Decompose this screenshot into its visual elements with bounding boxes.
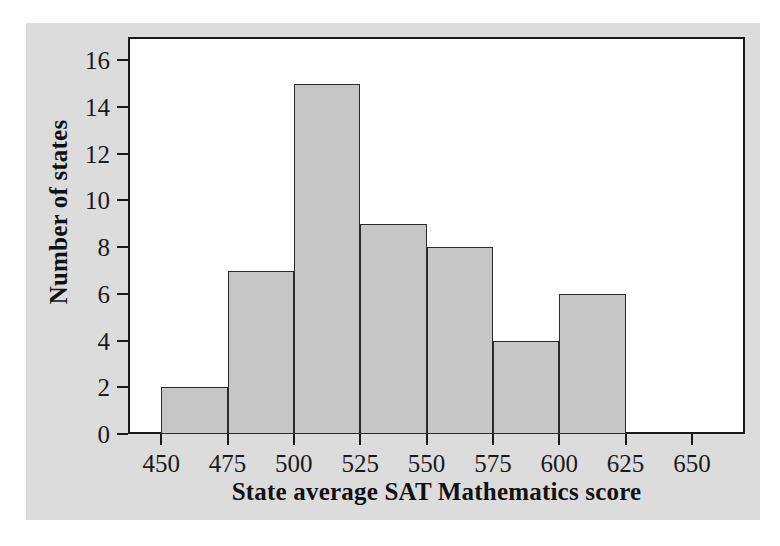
x-tick-mark [160, 434, 162, 445]
histogram-bar [493, 341, 559, 434]
x-tick-mark [492, 434, 494, 445]
figure-panel: 0246810121416 45047550052555057560062565… [26, 23, 760, 520]
x-tick-label: 550 [387, 451, 467, 476]
bars-layer [128, 37, 745, 434]
x-tick-label: 475 [188, 451, 268, 476]
histogram-bar [294, 84, 360, 434]
y-tick-label: 16 [66, 48, 110, 73]
x-tick-label: 650 [652, 451, 732, 476]
x-tick-mark [625, 434, 627, 445]
y-tick-mark [117, 153, 128, 155]
y-tick-label: 0 [66, 422, 110, 447]
x-tick-mark [227, 434, 229, 445]
x-tick-label: 625 [586, 451, 666, 476]
y-tick-mark [117, 59, 128, 61]
y-tick-mark [117, 386, 128, 388]
y-tick-label: 2 [66, 375, 110, 400]
x-tick-mark [359, 434, 361, 445]
x-tick-label: 450 [121, 451, 201, 476]
y-tick-mark [117, 199, 128, 201]
x-tick-mark [558, 434, 560, 445]
y-tick-mark [117, 340, 128, 342]
histogram-bar [228, 271, 294, 434]
x-tick-label: 500 [254, 451, 334, 476]
x-tick-label: 600 [519, 451, 599, 476]
x-tick-mark [426, 434, 428, 445]
x-tick-mark [293, 434, 295, 445]
x-tick-mark [691, 434, 693, 445]
x-tick-label: 525 [320, 451, 400, 476]
y-tick-mark [117, 246, 128, 248]
y-tick-mark [117, 293, 128, 295]
x-tick-label: 575 [453, 451, 533, 476]
y-tick-mark [117, 106, 128, 108]
histogram-bar [161, 387, 227, 434]
histogram-chart: 0246810121416 45047550052555057560062565… [26, 23, 760, 520]
histogram-bar [360, 224, 426, 434]
y-axis-title: Number of states [45, 82, 73, 342]
figure-page: 0246810121416 45047550052555057560062565… [0, 0, 780, 546]
histogram-bar [427, 247, 493, 434]
x-axis-title: State average SAT Mathematics score [128, 478, 745, 506]
y-tick-mark [117, 433, 128, 435]
histogram-bar [559, 294, 625, 434]
